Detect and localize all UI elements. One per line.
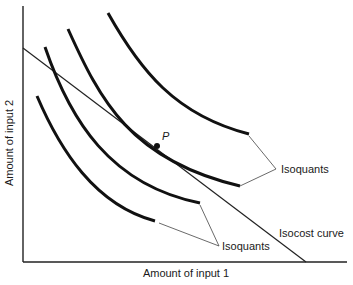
x-axis-label: Amount of input 1 [143, 267, 229, 279]
isoquant-4 [108, 13, 249, 134]
leader-upper [240, 136, 276, 186]
isocost-label: Isocost curve [279, 227, 344, 239]
isoquant-diagram: P Isoquants Isoquants Isocost curve Amou… [0, 0, 353, 285]
isoquant-3 [68, 29, 240, 186]
tangency-point [154, 143, 160, 149]
y-axis-label: Amount of input 2 [3, 100, 15, 186]
isoquant-2 [45, 47, 200, 203]
isoquant-label-lower: Isoquants [222, 240, 270, 252]
leader-lower [159, 205, 219, 246]
isoquant-label-upper: Isoquants [281, 163, 329, 175]
isoquant-1 [37, 96, 155, 221]
point-label: P [162, 130, 170, 142]
